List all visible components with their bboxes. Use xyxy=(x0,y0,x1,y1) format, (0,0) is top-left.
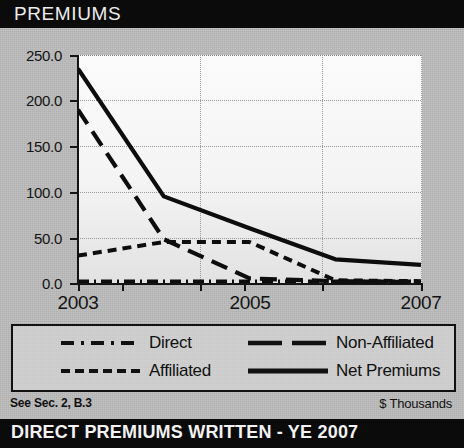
y-tick-250 xyxy=(70,55,78,57)
legend-label-direct: Direct xyxy=(149,333,192,353)
y-label-50: 50.0 xyxy=(0,230,62,247)
y-label-100: 100.0 xyxy=(0,184,62,201)
y-tick-200 xyxy=(70,100,78,102)
series-net-premiums xyxy=(78,69,421,265)
series-lines xyxy=(78,55,423,285)
y-tick-150 xyxy=(70,146,78,148)
y-tick-50 xyxy=(70,238,78,240)
chart-area: 250.0 200.0 150.0 100.0 50.0 0.0 2003 20… xyxy=(0,28,464,298)
x-label-2003: 2003 xyxy=(38,292,118,314)
footer-banner-text: DIRECT PREMIUMS WRITTEN - YE 2007 xyxy=(11,422,358,443)
source-note: See Sec. 2, B.3 xyxy=(10,396,92,410)
y-label-150: 150.0 xyxy=(0,138,62,155)
footer-banner: DIRECT PREMIUMS WRITTEN - YE 2007 xyxy=(0,419,464,448)
y-tick-0 xyxy=(70,283,78,285)
legend-swatch-long-dash-icon xyxy=(246,336,330,350)
y-label-0: 0.0 xyxy=(0,275,62,292)
x-label-2005: 2005 xyxy=(210,292,290,314)
x-label-2007: 2007 xyxy=(381,292,461,314)
legend-swatch-dash-dot-icon xyxy=(59,336,143,350)
y-tick-100 xyxy=(70,192,78,194)
units-note: $ Thousands xyxy=(379,396,452,411)
series-non-affiliated xyxy=(78,110,421,282)
chart-legend: Direct Affiliated Non-Affiliated Net Pre… xyxy=(11,324,456,392)
header-bar: PREMIUMS xyxy=(0,0,464,28)
page-title: PREMIUMS xyxy=(14,3,121,25)
legend-label-net-premiums: Net Premiums xyxy=(336,361,440,381)
y-label-250: 250.0 xyxy=(0,47,62,64)
legend-swatch-short-dash-icon xyxy=(59,364,143,378)
legend-label-non-affiliated: Non-Affiliated xyxy=(336,333,434,353)
legend-swatch-solid-icon xyxy=(246,364,330,378)
legend-label-affiliated: Affiliated xyxy=(149,361,211,381)
y-label-200: 200.0 xyxy=(0,92,62,109)
